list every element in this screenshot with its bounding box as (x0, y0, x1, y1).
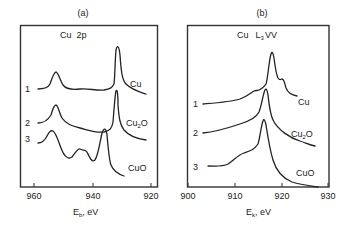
curve-number: 3 (193, 162, 198, 172)
figure: (a) Cu 2p 960 940 920 Eb, eV 1 Cu 2 Cu2O… (0, 0, 350, 227)
curve-label: Cu (130, 79, 142, 89)
curve-cu-l3vv (203, 52, 297, 104)
panel-a-title: Cu 2p (60, 30, 87, 40)
curve-number: 3 (25, 134, 30, 144)
figure-svg: (a) Cu 2p 960 940 920 Eb, eV 1 Cu 2 Cu2O… (0, 0, 350, 227)
tick-label: 930 (320, 191, 335, 201)
curve-cuo-2p (38, 129, 124, 176)
curve-number: 2 (193, 128, 198, 138)
curve-label: Cu2O (291, 129, 313, 140)
panel-b: (b) CuL3VV 900 910 920 930 Ek, eV 1 Cu 2… (180, 8, 335, 218)
tick-label: 960 (26, 191, 41, 201)
tick-label: 920 (143, 191, 158, 201)
panel-b-title: CuL3VV (237, 30, 277, 41)
x-axis-label: Ek, eV (246, 207, 271, 218)
curve-number: 1 (25, 84, 30, 94)
curve-label: CuO (296, 168, 315, 178)
curve-label: Cu (298, 97, 310, 107)
tick-label: 920 (274, 191, 289, 201)
tick-label: 940 (85, 191, 100, 201)
curve-number: 1 (193, 99, 198, 109)
curve-number: 2 (25, 118, 30, 128)
x-axis-label: Eb, eV (73, 207, 98, 218)
curve-label: CuO (128, 163, 147, 173)
tick-label: 910 (227, 191, 242, 201)
panel-b-label: (b) (257, 8, 268, 18)
tick-label: 900 (180, 191, 195, 201)
panel-a: (a) Cu 2p 960 940 920 Eb, eV 1 Cu 2 Cu2O… (21, 8, 159, 218)
panel-a-label: (a) (78, 8, 89, 18)
curve-label: Cu2O (126, 118, 148, 129)
